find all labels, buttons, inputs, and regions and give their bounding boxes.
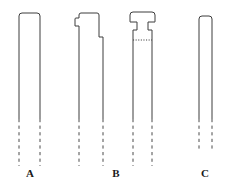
specimen-b-right [130, 12, 155, 166]
specimen-b-left [75, 13, 103, 166]
profile-drawing-canvas [0, 0, 226, 195]
specimen-b-right-outline [130, 12, 155, 119]
specimen-c-outline [199, 16, 212, 119]
specimen-c [199, 16, 212, 152]
technical-profile-figure: A B C [0, 0, 226, 195]
specimen-b-left-outline [75, 13, 103, 119]
caption-label-a: A [26, 168, 34, 179]
specimen-a-outline [19, 13, 40, 119]
caption-label-b: B [112, 168, 119, 179]
caption-label-c: C [201, 168, 209, 179]
specimen-a [19, 13, 40, 166]
